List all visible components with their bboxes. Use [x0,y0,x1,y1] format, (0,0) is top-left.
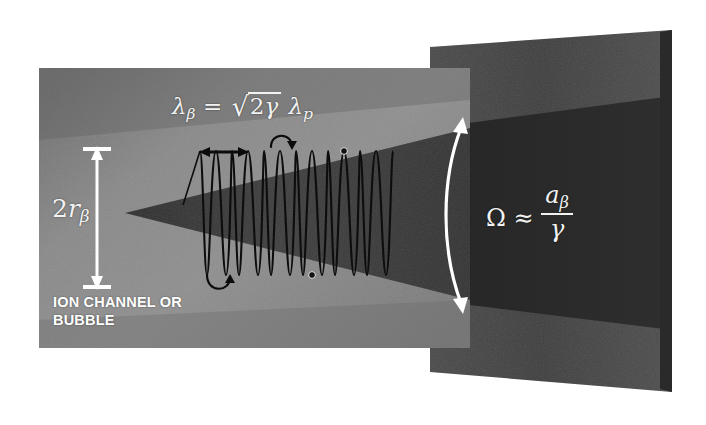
radius-sub: β [80,206,90,226]
omega-relation: ≈ [514,204,534,232]
radius-symbol: r [68,194,80,223]
opening-angle-numerator: aβ [541,183,573,212]
omega-symbol: Ω [486,204,506,232]
wavelength-relation: = [203,93,222,119]
betatron-diagram-figure: λβ = √2γ λp 2rβ Ω ≈ aβ γ ION CHANNEL OR … [0,0,706,425]
opening-angle-equation: Ω ≈ aβ γ [486,183,573,242]
square-root-icon: √2γ [230,92,282,120]
radius-coefficient: 2 [52,194,68,223]
wavelength-radicand-coefficient: 2 [250,93,265,119]
beam-radius-equation: 2rβ [52,196,90,225]
wavelength-lhs: λβ [172,93,196,119]
electron-marker-crest [341,148,348,155]
electron-marker-trough [309,272,316,279]
annotation-layer [0,0,706,425]
wavelength-double-arrow [199,147,249,157]
oscillation-curl-top-icon [271,136,297,150]
ion-channel-label: ION CHANNEL OR BUBBLE [53,294,182,329]
betatron-oscillation-curve [200,151,393,275]
wavelength-rhs-sub: p [303,104,313,123]
opening-angle-denominator: γ [541,216,573,242]
opening-angle-arc-arrow [446,117,468,314]
wavelength-rhs: λp [289,93,314,119]
trajectory-entry-tail [183,151,200,205]
wavelength-equation: λβ = √2γ λp [172,92,313,121]
oscillation-curl-bottom-icon [207,274,235,289]
wavelength-radicand-symbol: γ [264,93,278,119]
wavelength-lhs-sub: β [187,104,196,123]
opening-angle-fraction: aβ γ [541,183,573,242]
